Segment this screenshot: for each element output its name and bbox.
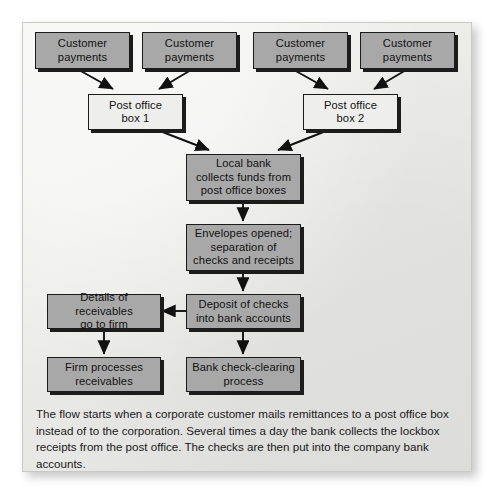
node-label-line1: Customer [276,37,325,50]
node-label-line1: Envelopes opened; [193,227,294,240]
node-label-line2: receivables [65,375,143,388]
node-label-line1: Customer [383,37,432,50]
node-label-line2: box 1 [109,112,162,125]
node-local-bank-collects-funds[interactable]: Local bank collects funds from post offi… [186,154,301,201]
node-label-line1: Details of receivables [50,291,158,318]
figure-caption: The flow starts when a corporate custome… [36,406,456,472]
flowchart-diagram: Customer payments Customer payments Cust… [23,23,471,471]
edge-cust4-pobox2 [374,70,406,89]
node-post-office-box-1[interactable]: Post office box 1 [88,94,183,130]
node-bank-check-clearing-process[interactable]: Bank check-clearing process [186,357,301,392]
node-label-line2: process [192,375,295,388]
node-label-line3: checks and receipts [193,254,294,267]
node-label-line1: Bank check-clearing [192,361,295,374]
edge-cust3-pobox2 [294,70,328,89]
node-label-line2: collects funds from [196,171,291,184]
node-post-office-box-2[interactable]: Post office box 2 [303,94,398,130]
figure-panel: Customer payments Customer payments Cust… [22,22,472,472]
node-label-line3: post office boxes [196,184,291,197]
node-firm-processes-receivables[interactable]: Firm processes receivables [47,357,161,392]
edge-pobox2-localbank [278,131,326,150]
node-label-line1: Firm processes [65,361,143,374]
node-label-line2: payments [383,51,432,64]
node-label-line2: go to firm [50,318,158,331]
node-label-line2: box 2 [324,112,377,125]
node-label-line1: Customer [58,37,107,50]
node-label-line2: payments [58,51,107,64]
node-label-line1: Local bank [196,157,291,170]
node-label-line1: Post office [109,99,162,112]
node-label-line1: Post office [324,99,377,112]
node-label-line2: separation of [193,241,294,254]
edge-cust1-pobox1 [79,70,113,89]
node-customer-payments-3[interactable]: Customer payments [253,32,348,69]
node-label-line2: payments [165,51,214,64]
node-details-of-receivables[interactable]: Details of receivables go to firm [47,294,161,329]
node-envelopes-opened[interactable]: Envelopes opened; separation of checks a… [186,224,301,271]
node-label-line1: Deposit of checks [196,298,291,311]
node-customer-payments-2[interactable]: Customer payments [142,32,237,69]
node-label-line1: Customer [165,37,214,50]
edge-cust2-pobox1 [159,70,191,89]
node-label-line2: payments [276,51,325,64]
node-customer-payments-4[interactable]: Customer payments [360,32,455,69]
node-deposit-of-checks[interactable]: Deposit of checks into bank accounts [186,294,301,329]
node-customer-payments-1[interactable]: Customer payments [35,32,130,69]
node-label-line2: into bank accounts [196,312,291,325]
edge-pobox1-localbank [160,131,209,150]
